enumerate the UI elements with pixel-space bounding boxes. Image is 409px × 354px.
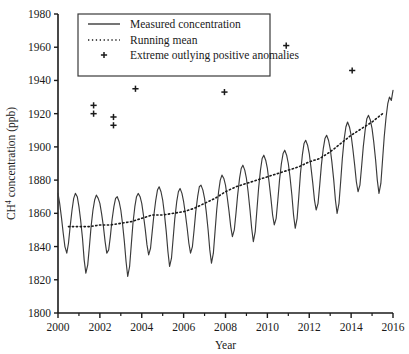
- x-tick-label: 2008: [214, 321, 237, 333]
- x-tick-label: 2016: [382, 321, 405, 333]
- figure-container: 200020022004200620082010201220142016 180…: [0, 0, 409, 354]
- x-tick-label: 2010: [256, 321, 279, 333]
- legend-label-measured: Measured concentration: [130, 18, 241, 30]
- y-axis-title: CH4 concentration (ppb): [4, 107, 19, 220]
- x-tick-label: 2000: [47, 321, 70, 333]
- y-tick-label: 1860: [28, 207, 51, 219]
- x-axis-title: Year: [215, 339, 236, 351]
- y-tick-label: 1920: [28, 108, 51, 120]
- x-tick-label: 2002: [88, 321, 111, 333]
- y-tick-label: 1980: [28, 8, 51, 20]
- y-tick-label: 1880: [28, 174, 51, 186]
- y-tick-label: 1800: [28, 307, 51, 319]
- plus-marker-icon: [283, 42, 289, 48]
- y-tick-labels: 1800182018401860188019001920194019601980: [28, 8, 51, 319]
- y-tick-label: 1900: [28, 141, 51, 153]
- legend: Measured concentrationRunning meanExtrem…: [78, 14, 299, 76]
- y-tick-label: 1940: [28, 74, 51, 86]
- plus-marker-icon: [349, 67, 355, 73]
- plus-marker-icon: [110, 122, 116, 128]
- x-tick-label: 2006: [172, 321, 195, 333]
- x-tick-label: 2014: [340, 321, 363, 333]
- x-tick-labels: 200020022004200620082010201220142016: [47, 321, 405, 333]
- running-mean-line: [68, 114, 382, 227]
- plus-marker-icon: [90, 111, 96, 117]
- data-series: [58, 90, 393, 276]
- y-tick-label: 1820: [28, 274, 51, 286]
- x-tick-label: 2012: [298, 321, 321, 333]
- plus-marker-icon: [90, 102, 96, 108]
- plus-marker-icon: [221, 89, 227, 95]
- ch4-concentration-chart: 200020022004200620082010201220142016 180…: [0, 0, 409, 354]
- legend-label-outliers: Extreme outlying positive anomalies: [130, 49, 299, 62]
- y-tick-label: 1840: [28, 241, 51, 253]
- plus-marker-icon: [110, 114, 116, 120]
- y-tick-label: 1960: [28, 41, 51, 53]
- plus-marker-icon: [132, 86, 138, 92]
- measured-concentration-line: [58, 90, 393, 276]
- legend-label-running-mean: Running mean: [130, 34, 198, 47]
- x-tick-label: 2004: [130, 321, 153, 333]
